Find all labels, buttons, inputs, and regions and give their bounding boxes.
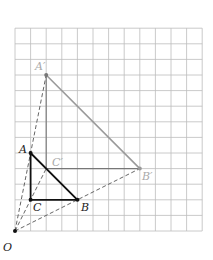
point-o [13, 229, 17, 233]
label-c-prime: C′ [52, 156, 63, 169]
label-b: B [80, 201, 89, 214]
point-c [29, 198, 33, 202]
label-o: O [3, 241, 12, 254]
label-a-prime: A′ [34, 60, 46, 73]
dilation-diagram: O A C B A′ C′ B′ [0, 0, 213, 260]
label-a: A [18, 143, 27, 156]
point-b [75, 198, 79, 202]
label-c: C [33, 201, 42, 214]
label-b-prime: B′ [141, 170, 153, 183]
point-a-prime [44, 73, 48, 77]
point-a [29, 151, 33, 155]
